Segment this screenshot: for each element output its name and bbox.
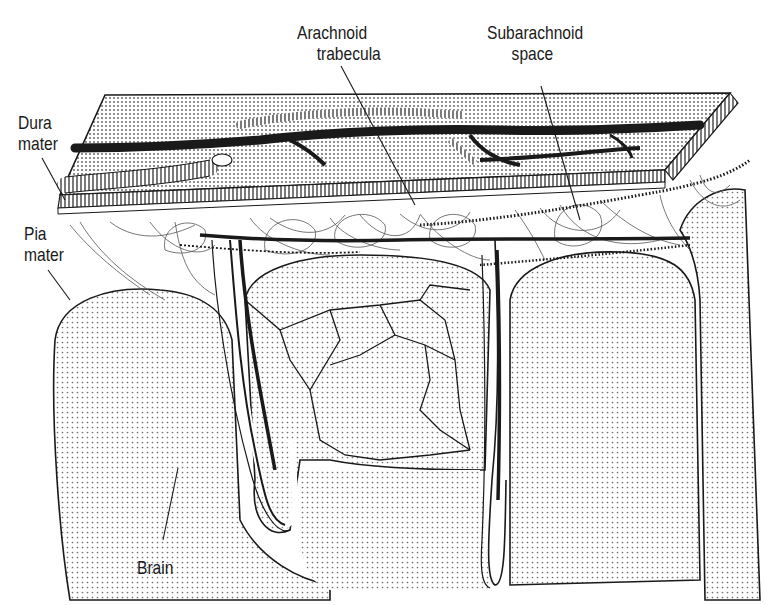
brain-tissue: [54, 189, 760, 600]
label-subarachnoid-space: Subarachnoid space: [487, 22, 583, 64]
label-line: trabecula: [297, 43, 381, 64]
label-dura-mater: Dura mater: [18, 112, 58, 154]
label-line: mater: [18, 133, 58, 154]
label-brain: Brain: [137, 557, 173, 578]
label-line: space: [487, 43, 583, 64]
label-line: Arachnoid: [297, 22, 381, 43]
label-arachnoid-trabecula: Arachnoid trabecula: [297, 22, 381, 64]
meninges-illustration: [0, 0, 775, 605]
label-line: Brain: [137, 557, 173, 578]
label-pia-mater: Pia mater: [24, 223, 64, 265]
label-line: Pia: [24, 223, 64, 244]
label-line: mater: [24, 244, 64, 265]
label-line: Subarachnoid: [487, 22, 583, 43]
label-line: Dura: [18, 112, 58, 133]
